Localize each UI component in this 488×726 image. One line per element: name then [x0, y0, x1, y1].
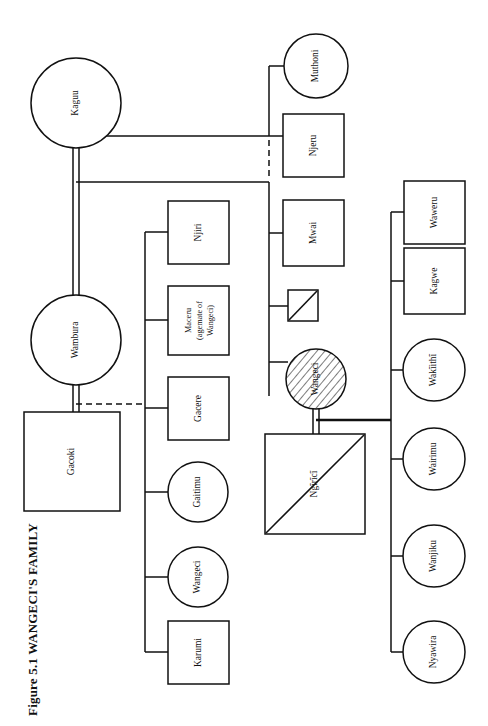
node-maceru[interactable]: Maceru (agemate of Wangeci): [168, 286, 229, 355]
wakiithi-label: Wakĩithĩ: [428, 353, 438, 386]
node-nyawira[interactable]: Nyawira: [403, 621, 465, 683]
wangeci-sibling-label: Wangeci: [192, 560, 202, 593]
node-njeru[interactable]: Njeru: [283, 114, 344, 177]
nyawira-label: Nyawira: [428, 635, 438, 668]
waweru-label: Waweru: [429, 197, 439, 229]
kaguu-label: Kaguu: [70, 90, 80, 116]
gaitimu-label: Gaitimu: [192, 476, 202, 507]
node-unnamed-deceased[interactable]: [288, 290, 318, 321]
node-wambura[interactable]: Wambura: [31, 295, 121, 385]
genealogy-diagram-canvas: Figure 5.1 WANGECI'S FAMILY: [0, 0, 488, 726]
node-karumi[interactable]: Karumi: [168, 621, 229, 684]
njiri-label: Njiri: [193, 223, 203, 241]
karumi-label: Karumi: [193, 638, 203, 667]
wangeci-ego-label: Wangeci: [310, 362, 320, 395]
maceru-label-line2: (agemate of: [195, 301, 204, 340]
node-ngiriciimport[interactable]: Ngĩrĩcĩ: [265, 434, 365, 534]
njeru-label: Njeru: [308, 134, 318, 156]
node-gacoki[interactable]: Gacoki: [24, 412, 120, 511]
node-wakiithi[interactable]: Wakĩithĩ: [403, 339, 465, 401]
figure-root: Figure 5.1 WANGECI'S FAMILY: [0, 0, 488, 726]
figure-title-group: Figure 5.1 WANGECI'S FAMILY: [25, 523, 40, 716]
wairimu-label: Wairimu: [428, 442, 438, 475]
gacoki-label: Gacoki: [66, 447, 76, 475]
maceru-label-line3: Wangeci): [206, 305, 215, 336]
node-wairimu[interactable]: Wairimu: [403, 428, 465, 490]
node-muthoni[interactable]: Muthoni: [284, 34, 348, 98]
figure-title: Figure 5.1 WANGECI'S FAMILY: [25, 523, 40, 716]
wambura-label: Wambura: [70, 321, 80, 358]
node-mwai[interactable]: Mwai: [283, 200, 344, 266]
node-wangeci-ego[interactable]: Wangeci: [286, 349, 346, 409]
ngiriciimport-label: Ngĩrĩcĩ: [309, 470, 319, 497]
maceru-label-line1: Maceru: [184, 308, 193, 333]
node-kaguu[interactable]: Kaguu: [31, 58, 121, 148]
node-wanjiku[interactable]: Wanjiku: [403, 525, 465, 587]
wanjiku-label: Wanjiku: [428, 540, 438, 572]
node-gaitimu[interactable]: Gaitimu: [168, 462, 228, 522]
muthoni-label: Muthoni: [310, 49, 320, 82]
gacere-label: Gacere: [193, 395, 203, 422]
node-kagwe[interactable]: Kagwe: [404, 248, 465, 314]
kagwe-label: Kagwe: [429, 268, 439, 295]
mwai-label: Mwai: [308, 222, 318, 245]
node-waweru[interactable]: Waweru: [404, 181, 465, 244]
node-wangeci-sibling[interactable]: Wangeci: [168, 547, 228, 607]
connector-lines-group: [73, 66, 404, 652]
node-njiri[interactable]: Njiri: [168, 201, 229, 264]
node-gacere[interactable]: Gacere: [168, 377, 229, 440]
